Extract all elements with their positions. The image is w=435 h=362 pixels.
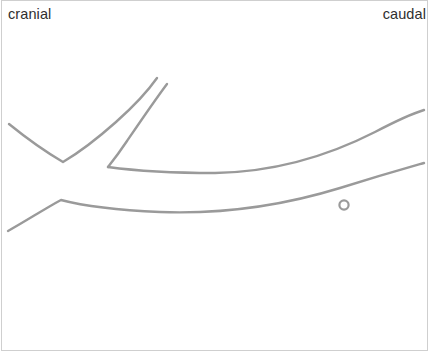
anatomy-line-drawing: [0, 0, 435, 362]
line-stroke-group: [8, 78, 424, 231]
long-upper-sweeping-curve: [108, 110, 424, 173]
label-cranial: cranial: [8, 7, 51, 22]
label-caudal: caudal: [383, 7, 426, 22]
upper-left-descending-branch: [9, 78, 157, 162]
upper-inner-parallel-branch: [108, 84, 167, 167]
figure-root: cranial caudal: [0, 0, 435, 362]
small-ring-marker-icon: [339, 200, 348, 209]
